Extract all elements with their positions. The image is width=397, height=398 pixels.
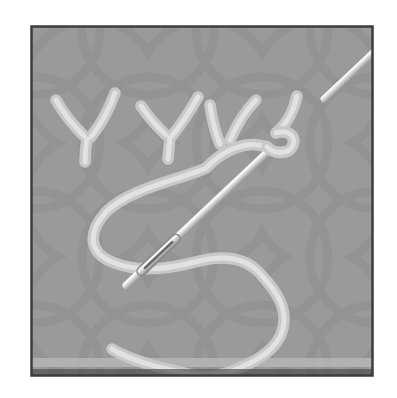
embroidery-diagram-page bbox=[0, 0, 397, 398]
fabric-hem-band bbox=[32, 358, 372, 367]
fly-stitch-illustration bbox=[0, 0, 397, 398]
fabric-lattice-pattern bbox=[32, 27, 372, 375]
